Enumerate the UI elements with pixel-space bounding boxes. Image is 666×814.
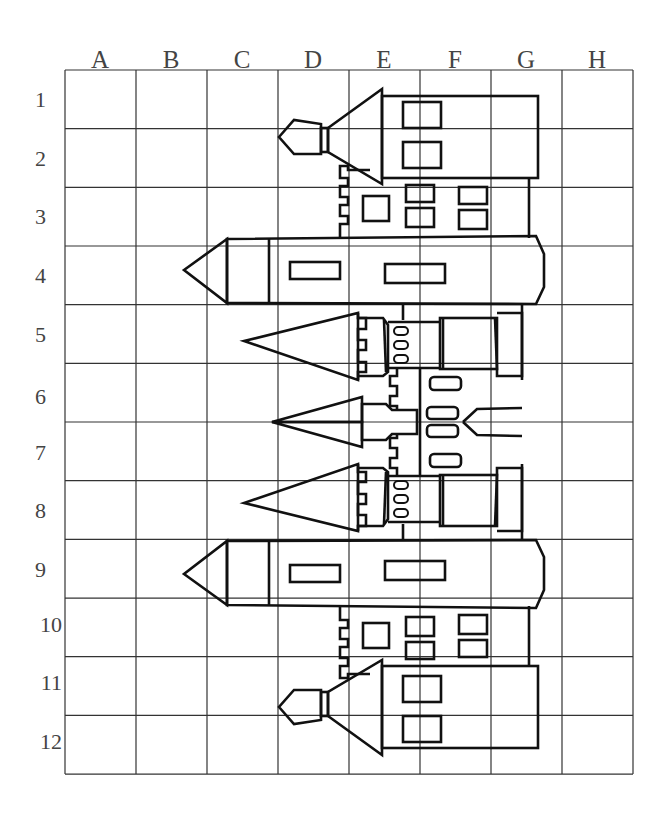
crenellation [340, 166, 370, 238]
column-label-c: C [234, 46, 251, 73]
window [403, 142, 441, 168]
window [459, 187, 487, 204]
porthole [394, 327, 408, 335]
drawing-bottom-half [184, 422, 544, 755]
porthole [394, 509, 408, 517]
window [459, 210, 487, 229]
center-tower-top [362, 422, 417, 440]
crenellation [340, 606, 370, 678]
row-label-3: 3 [35, 204, 46, 229]
column-label-h: H [588, 46, 606, 73]
column-labels: A B C D E F G H [91, 46, 606, 73]
row-label-8: 8 [35, 498, 46, 523]
column-label-d: D [304, 46, 322, 73]
row4-nose [184, 541, 227, 605]
window [403, 716, 441, 742]
row-label-12: 12 [40, 729, 62, 754]
row4-nose [184, 239, 227, 303]
window [459, 640, 487, 657]
row-label-2: 2 [35, 146, 46, 171]
top-tower-tip [279, 690, 321, 724]
spire-upper [244, 313, 358, 380]
window [385, 264, 445, 283]
window [459, 615, 487, 634]
upper-block [440, 475, 497, 526]
window [403, 102, 441, 128]
column-label-e: E [376, 46, 391, 73]
upper-block [440, 318, 497, 369]
window [430, 377, 461, 390]
grid-drawing: A B C D E F G H 1 2 3 4 5 6 7 8 9 10 11 … [0, 0, 666, 814]
row-label-6: 6 [35, 384, 46, 409]
top-tower-body [382, 666, 538, 748]
crenellation [390, 434, 397, 475]
column-label-f: F [448, 46, 462, 73]
crenellation [390, 369, 397, 410]
top-tower-body [382, 96, 538, 178]
turret-edge [384, 320, 386, 372]
porthole [394, 355, 408, 363]
window [363, 196, 389, 221]
row-label-11: 11 [41, 670, 62, 695]
row-labels: 1 2 3 4 5 6 7 8 9 10 11 12 [35, 87, 62, 754]
porthole [394, 341, 408, 349]
window [427, 407, 458, 419]
row-label-5: 5 [35, 322, 46, 347]
column-label-a: A [91, 46, 109, 73]
center-arrow-top [463, 422, 522, 436]
window [290, 565, 340, 582]
column-label-b: B [163, 46, 180, 73]
upper-block-right [497, 313, 522, 376]
row-label-7: 7 [35, 440, 46, 465]
center-tower-top [362, 404, 417, 422]
turret-edge [384, 472, 386, 524]
window [363, 623, 389, 648]
spire-upper [244, 464, 358, 531]
window [430, 454, 461, 467]
top-tower-tip [279, 120, 321, 154]
window [427, 425, 458, 437]
row-label-10: 10 [40, 612, 62, 637]
center-arrow-top [463, 408, 522, 422]
window [385, 561, 445, 580]
row-label-9: 9 [35, 557, 46, 582]
row-label-4: 4 [35, 263, 46, 288]
window [290, 262, 340, 279]
row-label-1: 1 [35, 87, 46, 112]
porthole [394, 481, 408, 489]
upper-block-right [497, 468, 522, 531]
drawing-top-half [184, 89, 544, 422]
window [403, 676, 441, 702]
porthole [394, 495, 408, 503]
column-label-g: G [517, 46, 535, 73]
